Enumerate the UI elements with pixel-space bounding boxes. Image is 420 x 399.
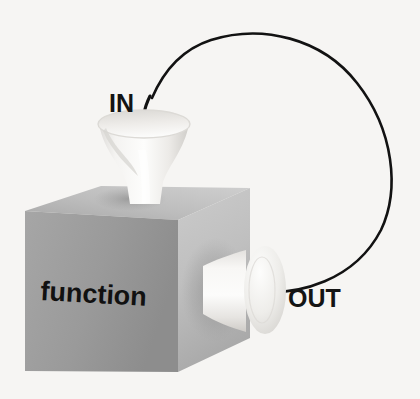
input-label: IN <box>109 89 134 117</box>
output-funnel-mouth <box>244 246 286 334</box>
diagram-canvas: function IN OUT <box>0 0 420 399</box>
function-machine-diagram: function IN OUT <box>0 0 420 399</box>
cube-label: function <box>40 276 148 312</box>
output-label: OUT <box>288 284 341 312</box>
